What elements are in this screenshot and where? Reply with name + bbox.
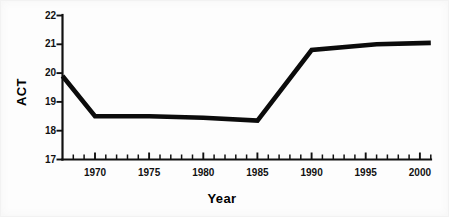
x-tick-label: 1985 [246, 167, 269, 178]
y-tick-label: 22 [45, 10, 57, 21]
y-axis-title: ACT [14, 78, 29, 106]
x-tick-labels: 1970 1975 1980 1985 1990 1995 2000 [84, 167, 432, 178]
y-tick-label: 19 [45, 96, 57, 107]
x-tick-label: 1995 [355, 167, 378, 178]
x-tick-label: 1980 [192, 167, 215, 178]
y-tick-label: 21 [45, 38, 57, 49]
y-tick-label: 17 [45, 154, 57, 165]
x-tick-label: 2000 [409, 167, 432, 178]
line-chart-canvas: 22 21 20 19 18 17 [0, 0, 449, 217]
y-tick-label: 18 [45, 125, 57, 136]
chart-figure: 22 21 20 19 18 17 [0, 0, 449, 217]
x-tick-label: 1975 [138, 167, 161, 178]
y-tick-label: 20 [45, 67, 57, 78]
act-score-line [63, 43, 431, 121]
x-tick-label: 1970 [84, 167, 107, 178]
x-tick-label: 1990 [300, 167, 323, 178]
y-tick-labels: 22 21 20 19 18 17 [45, 10, 57, 165]
x-axis-title: Year [207, 191, 236, 206]
